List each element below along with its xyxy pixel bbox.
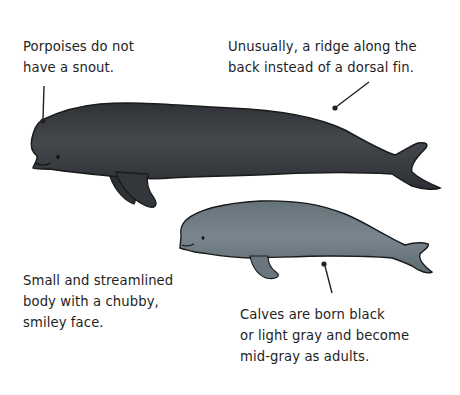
ridge-annotation: Unusually, a ridge along the back instea… xyxy=(228,36,417,78)
body-annotation-line: smiley face. xyxy=(23,312,173,333)
adult-eye xyxy=(56,155,59,159)
snout-annotation-line: Porpoises do not xyxy=(23,36,134,57)
snout-leader-dot xyxy=(40,118,45,123)
calves-annotation: Calves are born black or light gray and … xyxy=(240,304,409,367)
adult-porpoise xyxy=(31,103,440,207)
calves-annotation-line: or light gray and become xyxy=(240,325,409,346)
body-annotation-line: body with a chubby, xyxy=(23,291,173,312)
snout-leader-line xyxy=(43,86,44,120)
body-annotation: Small and streamlined body with a chubby… xyxy=(23,270,173,333)
calf-porpoise xyxy=(180,201,432,279)
ridge-leader-line xyxy=(336,82,369,107)
snout-annotation-line: have a snout. xyxy=(23,57,134,78)
ridge-annotation-line: Unusually, a ridge along the xyxy=(228,36,417,57)
ridge-leader-dot xyxy=(332,105,337,110)
adult-body xyxy=(31,103,440,189)
calves-leader-line xyxy=(325,266,332,293)
calf-flipper xyxy=(250,256,278,279)
snout-annotation: Porpoises do not have a snout. xyxy=(23,36,134,78)
ridge-annotation-line: back instead of a dorsal fin. xyxy=(228,57,417,78)
calves-leader-dot xyxy=(321,261,326,266)
calves-annotation-line: mid-gray as adults. xyxy=(240,346,409,367)
calf-eye xyxy=(202,236,205,240)
body-annotation-line: Small and streamlined xyxy=(23,270,173,291)
calf-body xyxy=(180,201,432,273)
calves-annotation-line: Calves are born black xyxy=(240,304,409,325)
